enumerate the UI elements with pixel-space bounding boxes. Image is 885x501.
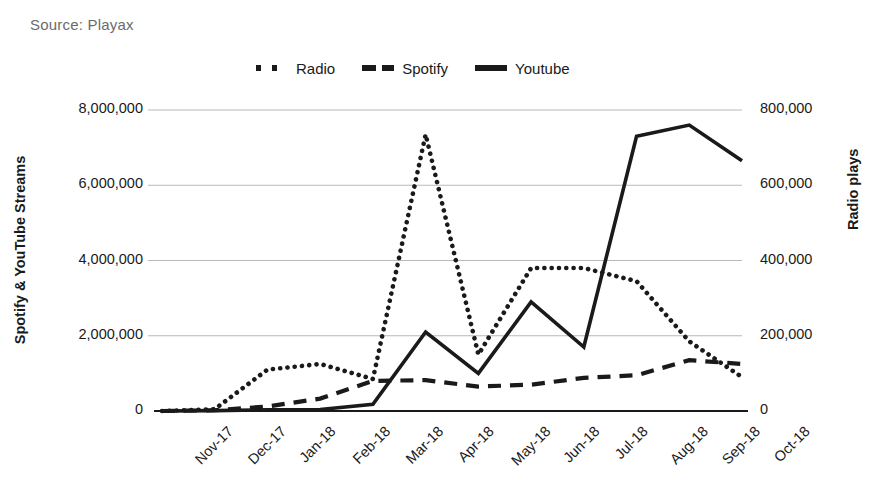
series-line-radio: [162, 134, 742, 411]
y-axis-right-tick-label: 400,000: [760, 251, 865, 267]
y-axis-right-tick-label: 600,000: [760, 175, 865, 191]
y-axis-left-tick-label: 8,000,000: [38, 100, 143, 116]
y-axis-right-tick-label: 800,000: [760, 100, 865, 116]
gridlines: [162, 110, 742, 336]
y-axis-left-tick-label: 4,000,000: [38, 251, 143, 267]
series-line-youtube: [162, 125, 742, 411]
y-axis-left-tick-label: 6,000,000: [38, 175, 143, 191]
data-series: [162, 125, 742, 411]
y-axis-right-tick-label: 0: [760, 401, 865, 417]
y-axis-right-tick-label: 200,000: [760, 326, 865, 342]
chart-root: Source: Playax RadioSpotifyYoutube Spoti…: [0, 0, 885, 501]
y-axis-left-tick-label: 2,000,000: [38, 326, 143, 342]
y-axis-left-tick-label: 0: [38, 401, 143, 417]
